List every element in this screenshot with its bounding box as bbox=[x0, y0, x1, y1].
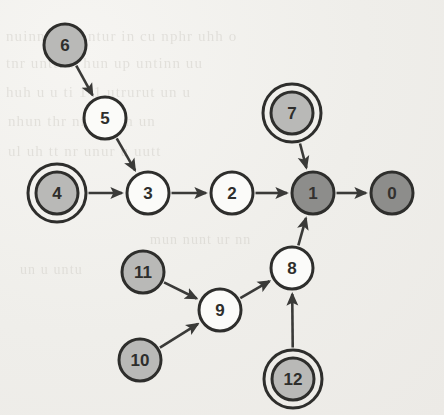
node-circle[interactable] bbox=[199, 289, 241, 331]
directed-graph: 0123456789101112 bbox=[0, 0, 444, 415]
graph-edge-7-to-1 bbox=[300, 143, 306, 167]
node-circle[interactable] bbox=[371, 172, 413, 214]
graph-node-7[interactable]: 7 bbox=[263, 84, 321, 142]
node-circle[interactable] bbox=[272, 358, 314, 400]
node-circle[interactable] bbox=[84, 97, 126, 139]
graph-edge-8-to-1 bbox=[298, 218, 306, 245]
node-circle[interactable] bbox=[292, 172, 334, 214]
node-circle[interactable] bbox=[271, 247, 313, 289]
graph-node-2[interactable]: 2 bbox=[211, 172, 253, 214]
node-circle[interactable] bbox=[119, 339, 161, 381]
graph-node-1[interactable]: 1 bbox=[292, 172, 334, 214]
node-circle[interactable] bbox=[211, 172, 253, 214]
graph-node-12[interactable]: 12 bbox=[264, 350, 322, 408]
graph-edge-10-to-9 bbox=[160, 324, 198, 348]
figure-canvas: nuinn tu ul ntur in cu nphr uhh otnr unt… bbox=[0, 0, 444, 415]
graph-edge-9-to-8 bbox=[240, 281, 269, 298]
node-circle[interactable] bbox=[44, 24, 86, 66]
graph-node-10[interactable]: 10 bbox=[119, 339, 161, 381]
graph-edge-6-to-5 bbox=[76, 66, 92, 96]
graph-node-8[interactable]: 8 bbox=[271, 247, 313, 289]
graph-node-6[interactable]: 6 bbox=[44, 24, 86, 66]
graph-node-4[interactable]: 4 bbox=[28, 164, 86, 222]
node-circle[interactable] bbox=[36, 172, 78, 214]
graph-node-0[interactable]: 0 bbox=[371, 172, 413, 214]
node-circle[interactable] bbox=[127, 172, 169, 214]
graph-node-3[interactable]: 3 bbox=[127, 172, 169, 214]
graph-node-9[interactable]: 9 bbox=[199, 289, 241, 331]
node-circle[interactable] bbox=[271, 92, 313, 134]
node-circle[interactable] bbox=[122, 251, 164, 293]
graph-node-11[interactable]: 11 bbox=[122, 251, 164, 293]
graph-node-5[interactable]: 5 bbox=[84, 97, 126, 139]
graph-edge-5-to-3 bbox=[117, 138, 135, 170]
graph-edge-11-to-9 bbox=[164, 282, 197, 298]
